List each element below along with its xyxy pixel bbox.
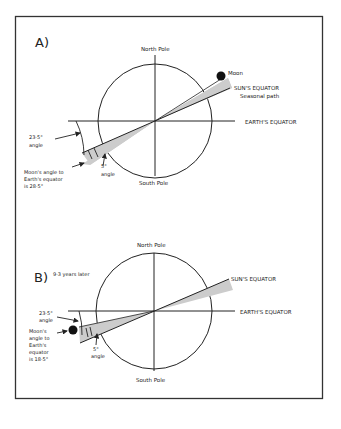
svg-text:is 28·5°: is 28·5° bbox=[24, 183, 44, 189]
svg-text:angle to: angle to bbox=[29, 335, 49, 342]
svg-text:Earth's: Earth's bbox=[29, 342, 47, 348]
wedge-upper-fill bbox=[155, 78, 232, 121]
moon-angle-label: Moon's angle to bbox=[24, 169, 64, 176]
panel-b-label: B) bbox=[34, 270, 48, 285]
angle-arc-235 bbox=[76, 121, 84, 155]
diagram-canvas: A) North Pole South Pole Moon SUN'S EQUA… bbox=[0, 0, 341, 429]
moon-icon bbox=[217, 72, 226, 81]
north-pole-label: North Pole bbox=[137, 242, 166, 248]
earth-equator-label: EARTH'S EQUATOR bbox=[240, 309, 292, 315]
sun-equator-label: SUN'S EQUATOR bbox=[231, 276, 276, 282]
svg-text:Earth's equator: Earth's equator bbox=[24, 176, 63, 183]
moon-angle-label: Moon's bbox=[29, 328, 47, 334]
panel-a: A) North Pole South Pole Moon SUN'S EQUA… bbox=[24, 35, 297, 189]
svg-text:angle: angle bbox=[91, 353, 105, 360]
seasonal-path-label: Seasonal path bbox=[240, 93, 280, 100]
north-pole-label: North Pole bbox=[141, 46, 170, 52]
svg-text:angle: angle bbox=[101, 171, 115, 178]
south-pole-label: South Pole bbox=[136, 377, 166, 383]
angle-5-label: 5° bbox=[93, 346, 99, 352]
panel-a-label: A) bbox=[35, 35, 49, 50]
panel-b: B) 9·3 years later North Pole South Pole… bbox=[29, 242, 292, 383]
wedge-lower-fill bbox=[82, 121, 155, 164]
angle-235-label: 23·5° bbox=[29, 134, 43, 140]
angle-5-label: 5° bbox=[101, 163, 107, 169]
figure-frame bbox=[16, 17, 323, 399]
svg-text:angle: angle bbox=[39, 317, 53, 324]
svg-text:angle: angle bbox=[29, 142, 43, 149]
sun-equator-label: SUN'S EQUATOR bbox=[234, 85, 279, 91]
moon-icon bbox=[69, 326, 78, 335]
svg-text:equator: equator bbox=[29, 349, 50, 356]
south-pole-label: South Pole bbox=[139, 180, 169, 186]
moon-label: Moon bbox=[228, 70, 243, 76]
moon-path-line bbox=[155, 79, 221, 121]
angle-235-label: 23·5° bbox=[39, 310, 53, 316]
panel-b-sublabel: 9·3 years later bbox=[53, 271, 90, 278]
earth-equator-label: EARTH'S EQUATOR bbox=[245, 119, 297, 125]
svg-text:is 18·5°: is 18·5° bbox=[29, 356, 49, 362]
